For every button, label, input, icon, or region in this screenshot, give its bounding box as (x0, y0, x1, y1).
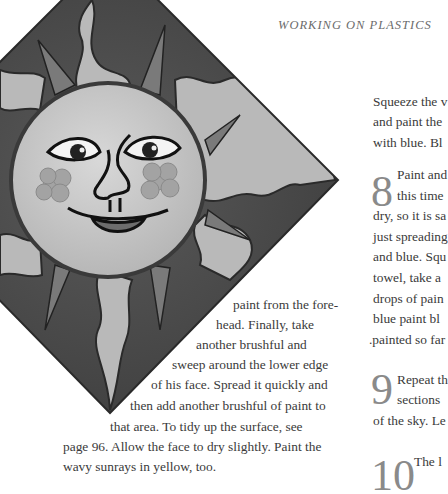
text-line: The l (414, 452, 442, 472)
text-line: and paint the (373, 112, 442, 132)
text-line: sections (397, 390, 440, 410)
text-line: another brushful and (196, 335, 307, 355)
text-line: Squeeze the v (373, 92, 447, 112)
text-line: with blue. Bl (373, 133, 443, 153)
text-line: of the sky. Le (373, 411, 446, 431)
text-line: just spreading (373, 227, 448, 247)
running-head: WORKING ON PLASTICS (278, 18, 432, 33)
text-line: drops of pain (373, 289, 444, 309)
text-line: dry, so it is sa (373, 206, 446, 226)
step-number-9: 9 (371, 370, 393, 410)
text-line: towel, take a (373, 268, 441, 288)
text-line: sweep around the lower edge (172, 355, 328, 375)
text-line: Paint and (397, 165, 447, 185)
text-line: head. Finally, take (216, 315, 314, 335)
text-line: then add another brushful of paint to (130, 396, 326, 416)
text-line: paint from the fore- (233, 295, 338, 315)
text-line: this time (397, 186, 444, 206)
text-line: blue paint bl (373, 309, 440, 329)
text-line: of his face. Spread it quickly and (151, 375, 328, 395)
step-number-10: 10 (371, 456, 415, 494)
text-line: Repeat th (397, 370, 448, 390)
text-line: and blue. Squ (373, 247, 446, 267)
text-line: .painted so far (369, 330, 445, 350)
text-line: that area. To tidy up the surface, see (110, 417, 303, 437)
text-line: page 96. Allow the face to dry slightly.… (63, 437, 321, 457)
text-line: wavy sunrays in yellow, too. (63, 457, 216, 477)
